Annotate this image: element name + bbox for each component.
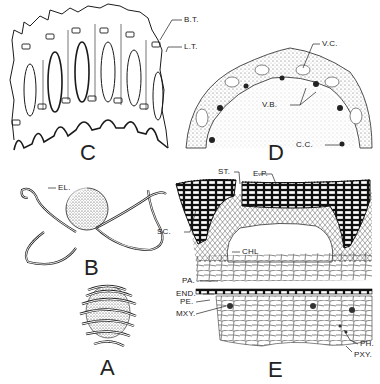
- label-mxy: MXY.: [176, 309, 195, 318]
- panel-e-drawing: [176, 172, 372, 352]
- panel-label-c: C: [80, 140, 96, 166]
- panel-label-d: D: [268, 140, 284, 166]
- label-lt: L.T.: [184, 42, 198, 51]
- label-pxy: PXY.: [354, 350, 372, 359]
- label-sc: SC.: [157, 227, 171, 236]
- panel-label-a: A: [100, 355, 115, 381]
- label-cc: C.C.: [296, 140, 313, 149]
- label-ep: E.P.: [253, 169, 268, 178]
- label-pe: PE.: [180, 297, 194, 306]
- panel-a-drawing: [80, 286, 136, 346]
- label-pa: PA.: [182, 276, 195, 285]
- label-ph: PH.: [360, 339, 374, 348]
- label-vb: V.B.: [262, 100, 277, 109]
- botanical-figure: [0, 0, 380, 384]
- panel-c-drawing: [10, 4, 182, 150]
- label-chl: CHL: [242, 247, 259, 256]
- label-bt: B.T.: [184, 15, 199, 24]
- panel-d-drawing: [186, 44, 372, 148]
- panel-label-b: B: [84, 255, 99, 281]
- panel-label-e: E: [268, 357, 283, 383]
- label-vc: V.C.: [322, 39, 338, 48]
- panel-b-drawing: [22, 188, 166, 264]
- label-st: ST.: [218, 167, 230, 176]
- label-el: EL.: [58, 183, 71, 192]
